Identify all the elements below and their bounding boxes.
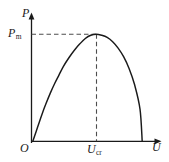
peak-guides	[32, 34, 97, 141]
y-axis-arrowhead	[29, 13, 35, 20]
critical-voltage-base: U	[87, 142, 96, 156]
y-axis-label: P	[22, 7, 29, 19]
origin-label-text: O	[20, 141, 29, 155]
peak-power-label: Pm	[8, 27, 21, 39]
y-axis	[29, 13, 35, 144]
x-axis-label: U	[152, 141, 161, 153]
plot-canvas	[0, 0, 169, 162]
x-axis-label-text: U	[152, 140, 161, 154]
critical-voltage-subscript: cr	[96, 148, 102, 157]
peak-power-subscript: m	[16, 32, 22, 41]
y-axis-label-text: P	[22, 6, 29, 20]
pu-curve	[33, 34, 142, 141]
origin-label: O	[20, 142, 29, 154]
critical-voltage-label: Ucr	[87, 143, 101, 155]
power-voltage-figure: P Pm O Ucr U	[0, 0, 169, 162]
peak-power-base: P	[8, 26, 15, 40]
